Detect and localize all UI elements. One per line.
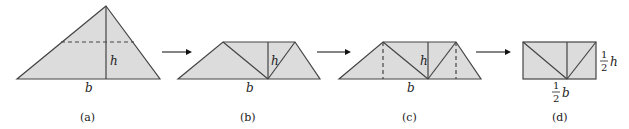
base-frac-den-d: 2 (553, 93, 559, 104)
base-label-a: b (85, 81, 93, 95)
triangle-a (17, 6, 160, 79)
caption-d: (d) (552, 111, 568, 124)
height-label-b: h (271, 54, 279, 68)
caption-b: (b) (240, 111, 256, 124)
base-var-d: b (562, 86, 570, 100)
base-label-b: b (246, 81, 254, 95)
height-var-d: h (610, 55, 618, 69)
caption-c: (c) (402, 111, 417, 124)
base-frac-num-d: 1 (553, 80, 559, 91)
height-frac-num-d: 1 (601, 49, 607, 60)
trapezoid-b (178, 42, 320, 79)
caption-a: (a) (80, 111, 95, 124)
height-label-c: h (420, 54, 428, 68)
height-label-a: h (110, 54, 118, 68)
arrow-head-icon (186, 49, 192, 55)
area-derivation-diagram: h b (a) h b (b) h b (c) 1 2 h 1 2 b (d) (0, 0, 629, 129)
arrow-head-icon (505, 49, 511, 55)
arrow-head-icon (345, 49, 351, 55)
trapezoid-c (339, 42, 481, 79)
base-label-c: b (407, 81, 415, 95)
height-frac-den-d: 2 (601, 62, 607, 73)
